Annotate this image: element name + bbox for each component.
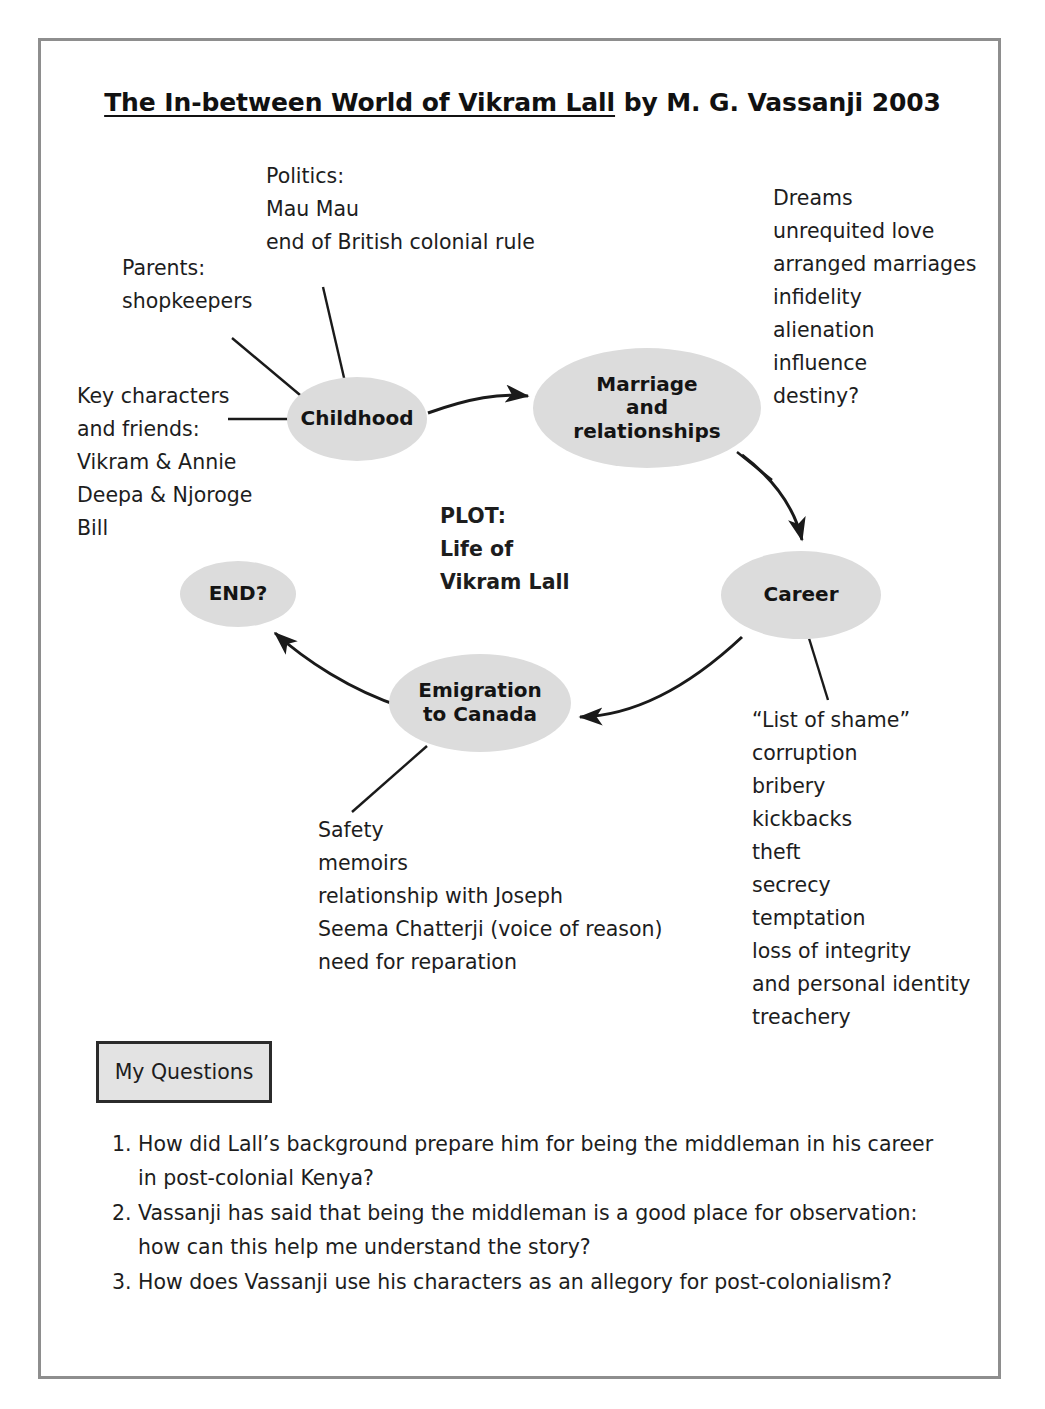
question-item: 2.Vassanji has said that being the middl…: [112, 1196, 982, 1264]
annotation-career-themes-line-7: temptation: [752, 902, 970, 935]
annotation-marriage-themes-line-4: infidelity: [773, 281, 976, 314]
annotation-marriage-themes-line-3: arranged marriages: [773, 248, 976, 281]
page-root: The In-between World of Vikram Lall by M…: [0, 0, 1045, 1409]
page-title: The In-between World of Vikram Lall by M…: [0, 88, 1045, 117]
annotation-parents-line-2: shopkeepers: [122, 285, 252, 318]
question-text: Vassanji has said that being the middlem…: [138, 1196, 982, 1264]
annotation-key-characters-line-5: Bill: [77, 512, 252, 545]
annotation-career-themes-line-3: bribery: [752, 770, 970, 803]
annotation-politics-line-3: end of British colonial rule: [266, 226, 535, 259]
annotation-marriage-themes-line-7: destiny?: [773, 380, 976, 413]
annotation-key-characters-line-1: Key characters: [77, 380, 252, 413]
center-label-line2: Life of: [440, 533, 570, 566]
node-marriage-label-line2: and: [626, 395, 668, 419]
question-item: 3.How does Vassanji use his characters a…: [112, 1265, 982, 1299]
node-childhood-label: Childhood: [301, 407, 414, 431]
annotation-marriage-themes: Dreamsunrequited lovearranged marriagesi…: [773, 182, 976, 413]
node-childhood[interactable]: Childhood: [287, 377, 427, 461]
page-title-book: The In-between World of Vikram Lall: [104, 88, 615, 117]
node-marriage-label: Marriage and relationships: [573, 373, 720, 444]
node-emigration-label-line2: to Canada: [423, 702, 537, 726]
node-emigration-label: Emigration to Canada: [418, 679, 541, 726]
annotation-parents: Parents:shopkeepers: [122, 252, 252, 318]
annotation-politics-line-1: Politics:: [266, 160, 535, 193]
annotation-career-themes-line-1: “List of shame”: [752, 704, 970, 737]
question-text-line-1: Vassanji has said that being the middlem…: [138, 1196, 982, 1230]
annotation-marriage-themes-line-5: alienation: [773, 314, 976, 347]
question-number: 1.: [112, 1127, 138, 1195]
question-text-line-2: in post-colonial Kenya?: [138, 1161, 982, 1195]
my-questions-box[interactable]: My Questions: [96, 1041, 272, 1103]
annotation-career-themes: “List of shame”corruptionbriberykickback…: [752, 704, 970, 1034]
node-career[interactable]: Career: [721, 551, 881, 639]
center-label-line3: Vikram Lall: [440, 566, 570, 599]
node-marriage-and-relationships[interactable]: Marriage and relationships: [533, 348, 761, 468]
diagram-center-label: PLOT: Life of Vikram Lall: [440, 500, 570, 599]
annotation-emigration-themes-line-3: relationship with Joseph: [318, 880, 663, 913]
node-career-label: Career: [763, 583, 838, 607]
my-questions-label: My Questions: [115, 1060, 254, 1084]
question-text: How does Vassanji use his characters as …: [138, 1265, 982, 1299]
annotation-politics-line-2: Mau Mau: [266, 193, 535, 226]
question-text-line-1: How did Lall’s background prepare him fo…: [138, 1127, 982, 1161]
annotation-key-characters-line-2: and friends:: [77, 413, 252, 446]
annotation-marriage-themes-line-1: Dreams: [773, 182, 976, 215]
question-number: 3.: [112, 1265, 138, 1299]
annotation-career-themes-line-10: treachery: [752, 1001, 970, 1034]
annotation-emigration-themes: Safetymemoirsrelationship with JosephSee…: [318, 814, 663, 979]
node-end-label: END?: [209, 582, 268, 606]
question-number: 2.: [112, 1196, 138, 1264]
annotation-marriage-themes-line-6: influence: [773, 347, 976, 380]
node-emigration-to-canada[interactable]: Emigration to Canada: [389, 654, 571, 752]
annotation-key-characters: Key charactersand friends:Vikram & Annie…: [77, 380, 252, 545]
annotation-parents-line-1: Parents:: [122, 252, 252, 285]
annotation-emigration-themes-line-5: need for reparation: [318, 946, 663, 979]
annotation-career-themes-line-5: theft: [752, 836, 970, 869]
annotation-emigration-themes-line-4: Seema Chatterji (voice of reason): [318, 913, 663, 946]
annotation-key-characters-line-4: Deepa & Njoroge: [77, 479, 252, 512]
annotation-politics: Politics:Mau Mauend of British colonial …: [266, 160, 535, 259]
questions-list: 1.How did Lall’s background prepare him …: [112, 1127, 982, 1300]
node-marriage-label-line3: relationships: [573, 419, 720, 443]
question-text-line-1: How does Vassanji use his characters as …: [138, 1265, 982, 1299]
center-label-line1: PLOT:: [440, 500, 570, 533]
node-end[interactable]: END?: [180, 561, 296, 627]
page-title-author: by M. G. Vassanji 2003: [615, 88, 941, 117]
node-emigration-label-line1: Emigration: [418, 678, 541, 702]
question-item: 1.How did Lall’s background prepare him …: [112, 1127, 982, 1195]
annotation-key-characters-line-3: Vikram & Annie: [77, 446, 252, 479]
annotation-emigration-themes-line-1: Safety: [318, 814, 663, 847]
node-marriage-label-line1: Marriage: [596, 372, 697, 396]
annotation-emigration-themes-line-2: memoirs: [318, 847, 663, 880]
question-text: How did Lall’s background prepare him fo…: [138, 1127, 982, 1195]
annotation-career-themes-line-4: kickbacks: [752, 803, 970, 836]
annotation-career-themes-line-2: corruption: [752, 737, 970, 770]
annotation-career-themes-line-8: loss of integrity: [752, 935, 970, 968]
question-text-line-2: how can this help me understand the stor…: [138, 1230, 982, 1264]
annotation-career-themes-line-6: secrecy: [752, 869, 970, 902]
annotation-career-themes-line-9: and personal identity: [752, 968, 970, 1001]
annotation-marriage-themes-line-2: unrequited love: [773, 215, 976, 248]
